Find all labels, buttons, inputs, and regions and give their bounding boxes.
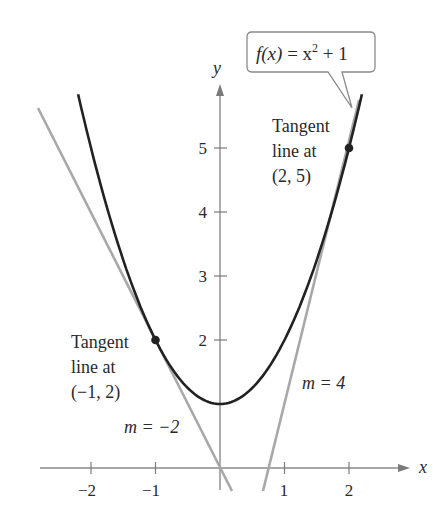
right-tangent-label-2: line at xyxy=(272,141,316,161)
y-axis-label: y xyxy=(211,58,221,78)
y-tick-label: 2 xyxy=(199,331,208,350)
left-tangent-label-2: line at xyxy=(71,357,115,377)
x-tick-label: −2 xyxy=(78,481,96,500)
tangent-lines-chart: −2 −1 1 2 2 3 4 5 x y f(x) = x2 + 1 Tang… xyxy=(0,0,448,520)
x-tick-label: 1 xyxy=(280,481,289,500)
point-2-5 xyxy=(345,144,354,153)
axes xyxy=(40,84,410,490)
x-axis-label: x xyxy=(418,457,427,477)
callout-fx: f(x) xyxy=(256,43,282,65)
svg-text:f(x) = x2 + 1: f(x) = x2 + 1 xyxy=(256,41,348,65)
x-tick-label: 2 xyxy=(345,481,354,500)
right-tangent-label-3: (2, 5) xyxy=(272,166,311,187)
function-callout: f(x) = x2 + 1 xyxy=(247,32,375,108)
left-tangent-label-1: Tangent xyxy=(71,332,129,352)
y-tick-label: 5 xyxy=(199,139,208,158)
callout-rest: + 1 xyxy=(318,43,348,64)
right-tangent-label-1: Tangent xyxy=(272,116,330,136)
left-tangent-label-3: (−1, 2) xyxy=(71,382,120,403)
slope-left-label: m = −2 xyxy=(124,417,179,437)
y-tick-label: 4 xyxy=(199,203,208,222)
point-neg1-2 xyxy=(151,336,160,345)
slope-right-label: m = 4 xyxy=(302,373,345,393)
x-tick-label: −1 xyxy=(142,481,160,500)
y-axis-arrow-icon xyxy=(216,84,224,96)
callout-eq: = x xyxy=(282,43,312,64)
y-tick-label: 3 xyxy=(199,267,208,286)
x-axis-arrow-icon xyxy=(398,464,410,472)
